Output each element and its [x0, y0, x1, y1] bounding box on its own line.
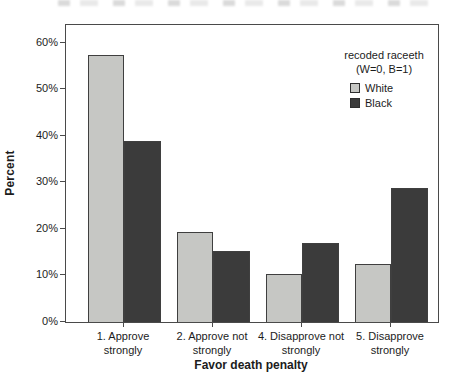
y-tick-mark — [60, 42, 65, 43]
bar-black-group4 — [391, 188, 428, 322]
y-tick-label: 20% — [6, 222, 58, 234]
x-tick-mark — [123, 322, 124, 327]
plot-area: recoded raceeth (W=0, B=1) WhiteBlack — [65, 24, 439, 323]
bar-black-group2 — [213, 251, 250, 322]
y-tick-mark — [60, 321, 65, 322]
x-axis-title: Favor death penalty — [65, 358, 437, 372]
y-tick-mark — [60, 88, 65, 89]
y-tick-label: 40% — [6, 129, 58, 141]
y-tick-label: 50% — [6, 82, 58, 94]
y-tick-mark — [60, 228, 65, 229]
bar-black-group1 — [124, 141, 161, 322]
bar-chart-figure: Percent recoded raceeth (W=0, B=1) White… — [0, 0, 464, 386]
white-swatch-icon — [350, 83, 360, 93]
legend-item-label: Black — [365, 97, 392, 109]
y-tick-mark — [60, 135, 65, 136]
y-tick-label: 60% — [6, 36, 58, 48]
legend-subtitle: (W=0, B=1) — [328, 62, 440, 76]
y-axis-title: Percent — [3, 108, 17, 238]
y-tick-label: 0% — [6, 315, 58, 327]
legend-title: recoded raceeth — [328, 48, 440, 62]
legend: recoded raceeth (W=0, B=1) WhiteBlack — [328, 48, 440, 110]
legend-item-label: White — [365, 82, 393, 94]
x-tick-mark — [301, 322, 302, 327]
x-tick-mark — [390, 322, 391, 327]
legend-item-black: Black — [350, 95, 440, 110]
legend-item-white: White — [350, 80, 440, 95]
x-tick-mark — [212, 322, 213, 327]
scan-artifact — [58, 0, 438, 6]
bar-white-group2 — [177, 232, 214, 322]
bar-black-group3 — [302, 243, 339, 322]
y-tick-mark — [60, 274, 65, 275]
y-tick-label: 10% — [6, 268, 58, 280]
bar-white-group3 — [266, 274, 303, 322]
bar-white-group1 — [88, 55, 125, 322]
y-tick-mark — [60, 181, 65, 182]
x-category-label: 5. Disapprove strongly — [330, 329, 450, 357]
bar-white-group4 — [355, 264, 392, 322]
y-tick-label: 30% — [6, 175, 58, 187]
black-swatch-icon — [350, 98, 360, 108]
legend-items: WhiteBlack — [328, 80, 440, 110]
